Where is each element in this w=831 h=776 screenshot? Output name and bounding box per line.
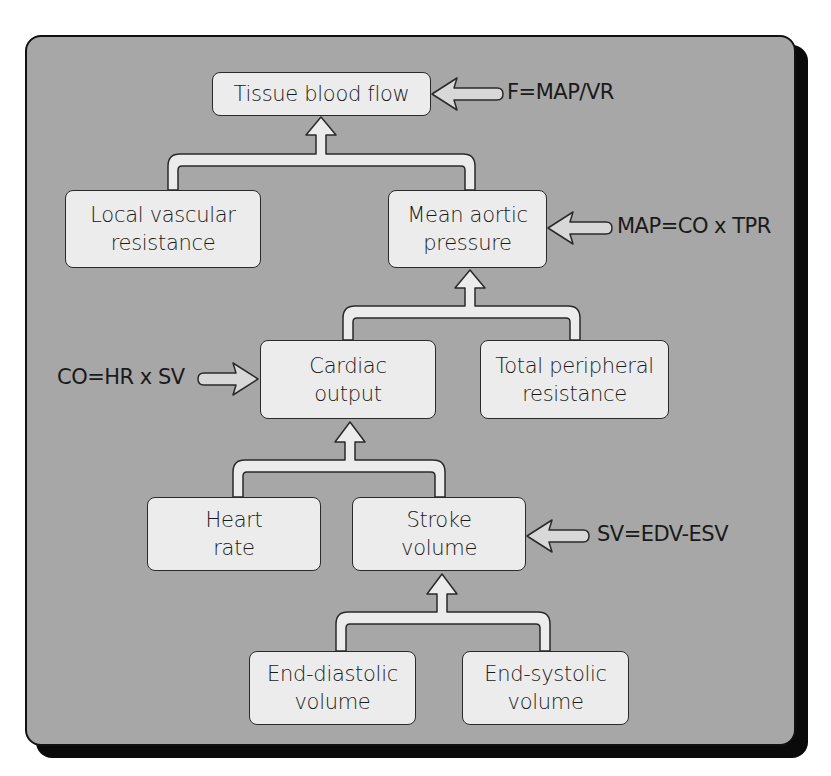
formula-sv: SV=EDV-ESV [597, 522, 728, 546]
formula-arrow-sv [527, 520, 589, 552]
node-label: Mean aortic pressure [407, 201, 528, 257]
connector-to-stroke-volume [336, 574, 550, 651]
node-label: Heart rate [206, 506, 263, 562]
node-label: Total peripheral resistance [495, 352, 654, 408]
formula-flow: F=MAP/VR [507, 80, 614, 104]
node-label: Local vascular resistance [90, 201, 235, 257]
node-stroke-volume: Stroke volume [352, 497, 526, 571]
node-mean-aortic-pressure: Mean aortic pressure [388, 190, 547, 268]
formula-co: CO=HR x SV [57, 365, 185, 389]
formula-arrow-map [548, 212, 612, 244]
formula-arrow-flow [432, 78, 503, 110]
connector-to-mean-aortic-pressure [343, 270, 580, 340]
node-cardiac-output: Cardiac output [260, 340, 436, 419]
node-end-diastolic-volume: End-diastolic volume [249, 651, 416, 725]
node-label: End-diastolic volume [267, 660, 398, 716]
node-heart-rate: Heart rate [147, 497, 321, 571]
node-label: Tissue blood flow [234, 80, 410, 108]
connector-to-tissue-blood-flow [168, 117, 475, 190]
node-label: Stroke volume [401, 506, 477, 562]
connector-to-cardiac-output [233, 422, 445, 497]
node-end-systolic-volume: End-systolic volume [462, 651, 629, 725]
node-label: Cardiac output [309, 352, 386, 408]
node-label: End-systolic volume [484, 660, 607, 716]
node-local-vascular-resistance: Local vascular resistance [65, 190, 261, 268]
formula-map: MAP=CO x TPR [617, 214, 771, 238]
node-tissue-blood-flow: Tissue blood flow [212, 72, 431, 116]
formula-arrow-co [198, 363, 258, 395]
node-total-peripheral-resistance: Total peripheral resistance [480, 340, 669, 419]
